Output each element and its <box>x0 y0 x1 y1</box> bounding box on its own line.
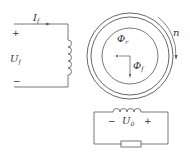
rotor-flux-arrowhead-icon <box>115 55 118 57</box>
armature-coil-icon <box>113 109 141 113</box>
field-circuit <box>14 23 72 88</box>
field-minus-sign: − <box>13 76 21 86</box>
field-current-label: If <box>32 12 41 25</box>
load-resistor-icon <box>121 141 141 147</box>
rotation-arrowhead-icon <box>175 55 178 60</box>
armature-minus-sign: − <box>108 116 116 126</box>
field-plus-sign: + <box>12 28 20 38</box>
speed-label: n <box>173 27 179 38</box>
field-coil-icon <box>68 40 72 75</box>
field-flux-label: Φf <box>133 60 145 73</box>
field-flux-arrowhead-icon <box>129 74 131 78</box>
armature-circuit <box>94 109 168 148</box>
armature-plus-sign: + <box>144 116 152 126</box>
rotor-flux-label: Φr <box>117 33 129 45</box>
armature-voltage-label: U0 <box>122 115 134 127</box>
current-arrow-icon <box>46 23 50 26</box>
generator-diagram: If + Uf − Φr Φf n − U0 + <box>0 0 190 157</box>
field-voltage-label: Uf <box>10 53 22 66</box>
machine <box>87 13 178 99</box>
